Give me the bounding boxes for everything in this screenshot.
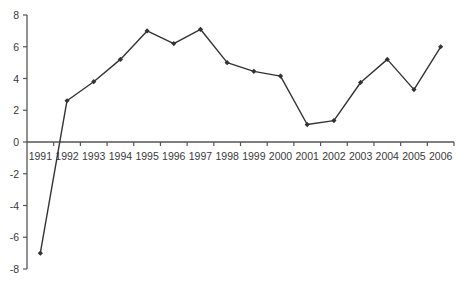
y-tick-label: 4	[13, 73, 19, 85]
y-axis: 86420-2-4-6-8	[10, 9, 27, 275]
x-tick-label: 2005	[402, 150, 426, 162]
data-point-marker	[305, 122, 310, 127]
x-tick-label: 1991	[29, 150, 53, 162]
data-series	[38, 27, 444, 256]
x-tick-label: 2006	[429, 150, 453, 162]
x-tick-label: 2002	[322, 150, 346, 162]
data-point-marker	[278, 74, 283, 79]
x-tick-label: 1999	[242, 150, 266, 162]
y-tick-label: -4	[10, 200, 19, 212]
x-tick-label: 1994	[109, 150, 133, 162]
x-tick-label: 2001	[296, 150, 320, 162]
y-tick-label: -6	[10, 231, 19, 243]
x-axis: 1991199219931994199519961997199819992000…	[27, 142, 454, 162]
x-tick-label: 1992	[55, 150, 79, 162]
x-tick-label: 1993	[82, 150, 106, 162]
y-tick-label: 6	[13, 41, 19, 53]
x-tick-label: 2004	[376, 150, 400, 162]
y-tick-label: 8	[13, 9, 19, 21]
line-chart: 86420-2-4-6-8 19911992199319941995199619…	[0, 0, 466, 287]
y-tick-label: 0	[13, 136, 19, 148]
x-tick-label: 2003	[349, 150, 373, 162]
y-tick-label: 2	[13, 104, 19, 116]
y-tick-label: -2	[10, 168, 19, 180]
data-point-marker	[251, 69, 256, 74]
y-tick-label: -8	[10, 263, 19, 275]
x-tick-label: 1998	[215, 150, 239, 162]
data-point-marker	[171, 41, 176, 46]
data-point-marker	[38, 251, 43, 256]
x-tick-label: 1996	[162, 150, 186, 162]
x-tick-label: 1997	[189, 150, 213, 162]
x-tick-label: 1995	[135, 150, 159, 162]
x-tick-label: 2000	[269, 150, 293, 162]
series-line	[40, 29, 440, 253]
